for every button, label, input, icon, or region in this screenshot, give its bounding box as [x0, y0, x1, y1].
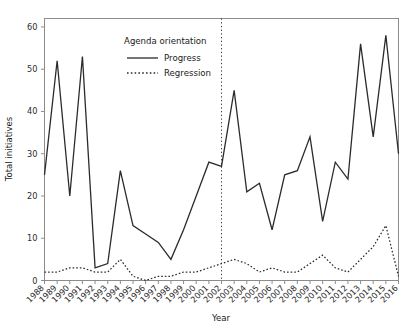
legend-title: Agenda orientation: [124, 36, 207, 46]
y-axis: 0102030405060: [27, 22, 44, 286]
y-tick-label: 40: [27, 106, 37, 116]
x-axis: 1988198919901991199219931994199519961997…: [24, 281, 400, 305]
x-axis-title: Year: [211, 313, 231, 323]
y-tick-label: 10: [27, 233, 37, 243]
y-tick-label: 50: [27, 64, 37, 74]
legend-label-progress: Progress: [164, 53, 201, 63]
y-tick-label: 30: [27, 149, 37, 159]
y-tick-label: 20: [27, 191, 37, 201]
y-tick-label: 60: [27, 22, 37, 32]
chart-svg: 0102030405060 19881989199019911992199319…: [0, 0, 416, 335]
legend-label-regression: Regression: [164, 68, 211, 78]
chart-figure: 0102030405060 19881989199019911992199319…: [0, 0, 416, 335]
y-axis-title: Total initiatives: [4, 116, 14, 182]
